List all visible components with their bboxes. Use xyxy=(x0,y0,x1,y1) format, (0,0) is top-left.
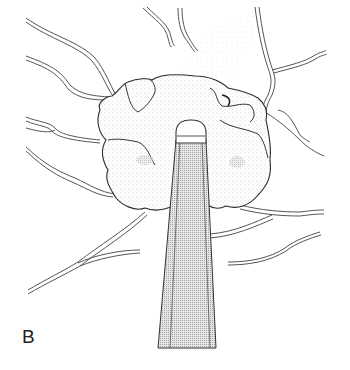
vessel-left-2 xyxy=(26,56,110,100)
vessel-left-4 xyxy=(26,147,115,197)
vessel-right-middle xyxy=(265,110,324,156)
vessel-top-right xyxy=(255,7,327,115)
vessel-top-center-2 xyxy=(178,8,198,52)
smoke-plume xyxy=(175,10,260,85)
vessel-lower-left xyxy=(28,212,147,294)
vessel-top-center-1 xyxy=(143,7,175,47)
lesion-spot-right xyxy=(229,156,245,168)
vessel-left-3 xyxy=(26,117,100,143)
illustration xyxy=(0,0,350,370)
panel-label: B xyxy=(22,326,35,348)
lesion-spot-left xyxy=(136,155,154,165)
vessel-upper-left xyxy=(26,18,116,96)
probe-tip xyxy=(176,120,206,143)
vessel-lower-right xyxy=(210,205,324,265)
